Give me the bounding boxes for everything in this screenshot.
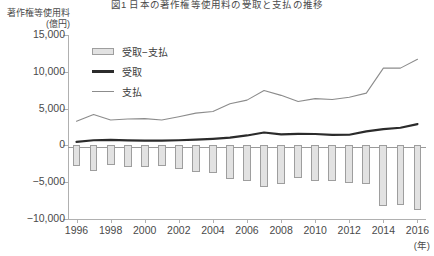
legend-item-受取−支払: 受取−支払	[92, 44, 168, 59]
legend-item-受取: 受取	[92, 64, 168, 79]
chart-legend: 受取−支払受取支払	[92, 44, 168, 104]
line-series-layer	[0, 0, 434, 256]
legend-item-label: 支払	[122, 84, 142, 99]
legend-item-label: 受取	[122, 64, 142, 79]
legend-item-支払: 支払	[92, 84, 168, 99]
chart-root: 図1 日本の著作権等使用料の受取と支払の推移 著作権等使用料 (億円) 15,0…	[0, 0, 434, 256]
legend-item-label: 受取−支払	[122, 44, 168, 59]
legend-swatch-icon	[92, 91, 114, 92]
legend-swatch-icon	[92, 48, 114, 55]
legend-swatch-mark	[92, 48, 114, 55]
legend-swatch-mark	[92, 70, 114, 72]
legend-swatch-icon	[92, 70, 114, 72]
line-series-受取	[77, 124, 418, 142]
legend-swatch-mark	[92, 91, 114, 92]
